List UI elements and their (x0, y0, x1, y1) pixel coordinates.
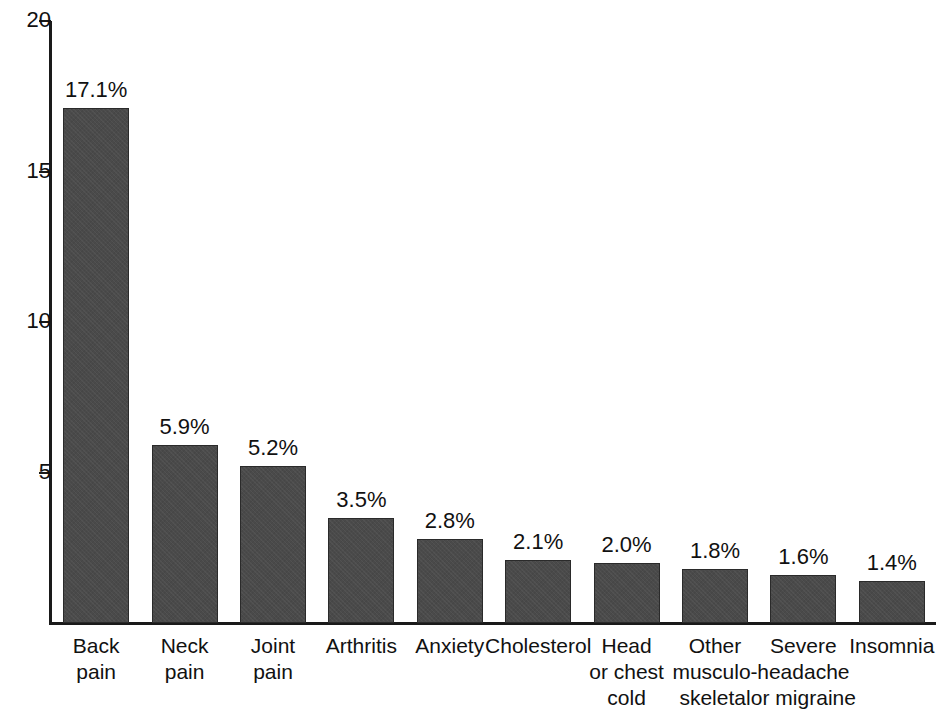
y-axis-tick-label: 15 (15, 160, 51, 182)
bar-value-label: 5.2% (226, 436, 320, 460)
bar-group[interactable]: 3.5% (328, 21, 394, 623)
bar-value-label: 2.0% (580, 533, 674, 557)
bar-group[interactable]: 1.8% (682, 21, 748, 623)
category-label-line: or migraine (747, 685, 859, 711)
bar-group[interactable]: 2.8% (417, 21, 483, 623)
bar-value-label: 2.8% (403, 509, 497, 533)
bar[interactable] (505, 560, 571, 623)
plot-area: 17.1%5.9%5.2%3.5%2.8%2.1%2.0%1.8%1.6%1.4… (52, 21, 936, 623)
bar-value-label: 1.6% (756, 545, 850, 569)
bar[interactable] (328, 518, 394, 623)
bar-group[interactable]: 1.4% (859, 21, 925, 623)
bar[interactable] (770, 575, 836, 623)
bar-value-label: 2.1% (491, 530, 585, 554)
bar-value-label: 1.8% (668, 539, 762, 563)
category-label-line: headache (747, 659, 859, 685)
bar[interactable] (417, 539, 483, 623)
bar-group[interactable]: 5.9% (152, 21, 218, 623)
bar[interactable] (240, 466, 306, 623)
y-axis-tick-label: 10 (15, 310, 51, 332)
category-label-line: pain (217, 659, 329, 685)
bar-group[interactable]: 1.6% (770, 21, 836, 623)
bar-value-label: 1.4% (845, 551, 936, 575)
category-label-line: Insomnia (836, 633, 936, 659)
bar-value-label: 5.9% (138, 415, 232, 439)
bar-group[interactable]: 2.1% (505, 21, 571, 623)
bar-group[interactable]: 17.1% (63, 21, 129, 623)
y-axis-tick-label: 5 (15, 461, 51, 483)
bar[interactable] (152, 445, 218, 623)
bar[interactable] (63, 108, 129, 623)
bar[interactable] (859, 581, 925, 623)
bar[interactable] (682, 569, 748, 623)
bar-value-label: 17.1% (49, 78, 143, 102)
y-axis-tick-label: 20 (15, 9, 51, 31)
bar-group[interactable]: 5.2% (240, 21, 306, 623)
bar[interactable] (594, 563, 660, 623)
x-axis-category-label: Insomnia (836, 633, 936, 659)
bar-value-label: 3.5% (314, 488, 408, 512)
bar-group[interactable]: 2.0% (594, 21, 660, 623)
